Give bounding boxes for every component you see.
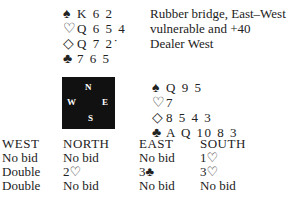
deal-info: Rubber bridge, East–West vulnerable and … <box>150 6 286 51</box>
compass-east: E <box>102 97 108 107</box>
auction-row: No bid No bid No bid 1♡ <box>2 151 260 165</box>
info-line: Rubber bridge, East–West <box>150 6 286 21</box>
auction-table: WEST NORTH EAST SOUTH No bid No bid No b… <box>2 137 260 193</box>
compass-west: W <box>67 97 76 107</box>
north-hearts: ♡Q 6 5 4 <box>63 21 126 36</box>
north-hand: ♠K 6 2 ♡Q 6 5 4 ◇Q 7 2˙ ♣7 6 5 <box>63 6 126 66</box>
info-line: Dealer West <box>150 36 286 51</box>
info-line: vulnerable and +40 <box>150 21 286 36</box>
spade-icon: ♠ <box>152 80 166 95</box>
auction-header: WEST NORTH EAST SOUTH <box>2 137 260 151</box>
diamond-icon: ◇ <box>152 110 166 125</box>
compass-south: S <box>88 113 93 123</box>
heart-icon: ♡ <box>63 21 77 36</box>
east-hearts: ♡7 <box>152 95 238 110</box>
compass-diagram: N W E S <box>62 77 115 129</box>
north-clubs: ♣7 6 5 <box>63 51 126 66</box>
heart-icon: ♡ <box>152 95 166 110</box>
auction-row: Double No bid No bid No bid <box>2 179 260 193</box>
north-spades: ♠K 6 2 <box>63 6 126 21</box>
compass-north: N <box>85 82 92 92</box>
north-diamonds: ◇Q 7 2˙ <box>63 36 126 51</box>
club-icon: ♣ <box>63 51 77 66</box>
east-diamonds: ◇8 5 4 3 <box>152 110 238 125</box>
diamond-icon: ◇ <box>63 36 77 51</box>
auction-row: Double 2♡ 3♣ 3♡ <box>2 165 260 179</box>
east-spades: ♠Q 9 5 <box>152 80 238 95</box>
spade-icon: ♠ <box>63 6 77 21</box>
east-hand: ♠Q 9 5 ♡7 ◇8 5 4 3 ♣A Q 10 8 3 <box>152 80 238 140</box>
